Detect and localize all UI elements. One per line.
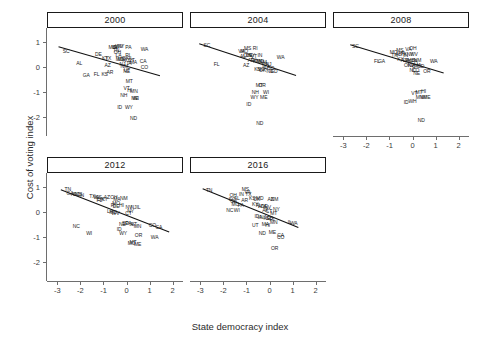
x-axis-2016: -3-2-1012 xyxy=(190,281,326,301)
data-point-label: WA xyxy=(290,220,298,225)
data-point-label: WI xyxy=(86,230,92,235)
data-point-label: TX xyxy=(105,56,111,61)
x-tick-label: 1 xyxy=(147,286,151,295)
data-point-label: UT xyxy=(252,222,258,227)
data-point-label: RI xyxy=(253,45,258,50)
x-tick-label: -3 xyxy=(340,141,347,150)
data-point-label: WI xyxy=(133,95,139,100)
data-point-label: WA xyxy=(151,234,159,239)
data-point-label: FL xyxy=(214,62,220,67)
data-point-label: AZ xyxy=(104,195,110,200)
data-point-label: NC xyxy=(73,223,80,228)
data-point-label: WA xyxy=(141,46,149,51)
plot-area-2016: TNMSOHINTXVAALSCGAARKSOKMDAZNMMOPAKYFLWV… xyxy=(190,173,326,281)
data-point-label: ME xyxy=(269,230,276,235)
data-point-label: MN xyxy=(270,219,278,224)
data-point-label: NY xyxy=(118,43,125,48)
data-point-label: PA xyxy=(125,44,131,49)
data-point-label: FL xyxy=(94,72,100,77)
plot-area-2004: SCFLVAMOMSRIALOHDENYVTINAZARTXKYTNMDNMPA… xyxy=(190,28,326,136)
panel-strip-label-2016: 2016 xyxy=(190,157,326,173)
data-point-label: OR xyxy=(423,68,430,73)
data-point-label: ME xyxy=(423,94,430,99)
panel-2008: 2008SCFLGAMOMSVAOHTNALARTXINNYWVKYAZLAKS… xyxy=(333,12,469,136)
y-tick-label: 0 xyxy=(36,207,40,216)
data-point-label: OR xyxy=(258,83,265,88)
data-point-label: ID xyxy=(246,102,251,107)
x-tick-label: -1 xyxy=(243,286,250,295)
data-point-label: CO xyxy=(141,64,148,69)
data-point-label: WA xyxy=(430,59,438,64)
data-point-label: WH xyxy=(408,98,416,103)
x-tick-label: -2 xyxy=(363,141,370,150)
y-axis-2000: 10-1-2 xyxy=(29,28,47,136)
data-point-label: AL xyxy=(76,61,82,66)
data-point-label: IL xyxy=(137,204,141,209)
data-point-label: AZ xyxy=(243,62,249,67)
data-point-label: ME xyxy=(260,94,267,99)
x-tick-label: 0 xyxy=(410,141,414,150)
y-tick-label: 1 xyxy=(36,37,40,46)
panel-strip-label-2008: 2008 xyxy=(333,12,469,28)
x-tick-label: -2 xyxy=(77,286,84,295)
data-point-label: WY xyxy=(251,94,259,99)
data-point-label: AR xyxy=(107,69,114,74)
data-point-label: NC xyxy=(226,207,233,212)
x-tick-label: -2 xyxy=(220,286,227,295)
figure-root: Cost of voting index State democracy ind… xyxy=(0,0,486,343)
x-tick-label: 2 xyxy=(457,141,461,150)
x-tick-label: 0 xyxy=(124,286,128,295)
data-point-label: ID xyxy=(117,105,122,110)
data-point-label: OR xyxy=(135,233,142,238)
data-point-label: OR xyxy=(271,245,278,250)
x-tick-label: 1 xyxy=(290,286,294,295)
y-axis-2012: 10-1-2 xyxy=(29,173,47,281)
panel-2012: 2012TNGAALSCMSINTXKSVAOKFLKYAZOHMANMMORI… xyxy=(47,157,183,281)
data-point-label: AZ xyxy=(105,62,111,67)
data-point-label: ND xyxy=(259,230,266,235)
data-point-label: NM xyxy=(120,195,128,200)
y-tick-label: -2 xyxy=(33,113,40,122)
x-tick-label: 1 xyxy=(433,141,437,150)
panel-2016: 2016TNMSOHINTXVAALSCGAARKSOKMDAZNMMOPAKY… xyxy=(190,157,326,281)
data-point-label: TN xyxy=(206,187,212,192)
data-point-label: SC xyxy=(352,44,359,49)
data-point-label: GA xyxy=(378,59,385,64)
data-point-label: MT xyxy=(126,79,133,84)
data-point-label: SC xyxy=(63,49,70,54)
data-point-label: IN xyxy=(79,193,84,198)
data-point-label: ND xyxy=(256,120,263,125)
data-point-label: MA xyxy=(130,60,137,65)
panel-strip-label-2012: 2012 xyxy=(47,157,183,173)
data-point-label: ND xyxy=(130,116,137,121)
data-point-label: MN xyxy=(134,224,142,229)
data-point-label: SC xyxy=(203,43,210,48)
panel-strip-label-2000: 2000 xyxy=(47,12,183,28)
data-point-label: OK xyxy=(259,68,266,73)
data-point-label: WV xyxy=(112,210,120,215)
data-point-label: GA xyxy=(83,72,90,77)
data-point-label: ID xyxy=(404,99,409,104)
data-point-label: MS xyxy=(244,45,251,50)
panel-strip-label-2004: 2004 xyxy=(190,12,326,28)
y-tick-label: -1 xyxy=(33,233,40,242)
data-point-label: DE xyxy=(95,51,102,56)
x-tick-label: -3 xyxy=(54,286,61,295)
data-point-label: NE xyxy=(413,71,420,76)
y-tick-label: -1 xyxy=(33,88,40,97)
data-point-label: WY xyxy=(125,104,133,109)
plot-area-2000: SCALGAFLDEKSKYTXAZARMSVAINTNOHWVNYLAMDMO… xyxy=(47,28,183,136)
data-point-label: NH xyxy=(120,93,127,98)
data-point-label: NM xyxy=(271,196,279,201)
x-axis-label: State democracy index xyxy=(150,321,330,332)
x-axis-2012: -3-2-1012 xyxy=(47,281,183,301)
data-point-label: VA xyxy=(245,189,251,194)
data-point-label: WY xyxy=(119,230,127,235)
data-point-label: CA xyxy=(155,225,162,230)
data-point-label: CO xyxy=(277,235,284,240)
plot-area-2012: TNGAALSCMSINTXKSVAOKFLKYAZOHMANMMORIDEHI… xyxy=(47,173,183,281)
y-tick-label: 1 xyxy=(36,182,40,191)
x-tick-label: -3 xyxy=(197,286,204,295)
data-point-label: MN xyxy=(130,89,138,94)
x-tick-label: -1 xyxy=(386,141,393,150)
